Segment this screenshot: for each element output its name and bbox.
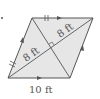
rhombus-diagram: 8 ft 8 ft 10 ft bbox=[0, 0, 100, 99]
arrow-left-icon bbox=[20, 37, 24, 43]
label-bottom-side: 10 ft bbox=[29, 84, 53, 95]
bullet-dot bbox=[1, 17, 3, 19]
